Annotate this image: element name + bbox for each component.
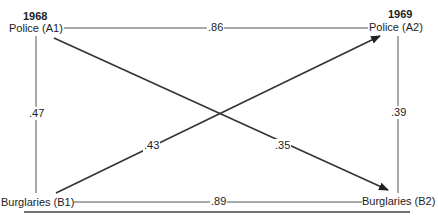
edge-a1-b2 (54, 38, 388, 190)
coef-a1-b2: .35 (274, 139, 291, 152)
year-1969-label: 1969 (388, 8, 412, 21)
node-police-a2: Police (A2) (369, 21, 423, 34)
node-police-a1: Police (A1) (9, 22, 63, 35)
node-burglaries-b1: Burglaries (B1) (1, 196, 74, 209)
coef-a1-b1: .47 (28, 107, 45, 120)
coef-b1-b2: .89 (210, 195, 227, 208)
edge-b1-a2 (56, 36, 380, 193)
coef-a1-a2: .86 (207, 21, 224, 34)
coef-b1-a2: .43 (143, 139, 160, 152)
node-burglaries-b2: Burglaries (B2) (362, 195, 435, 208)
coef-a2-b2: .39 (390, 106, 407, 119)
